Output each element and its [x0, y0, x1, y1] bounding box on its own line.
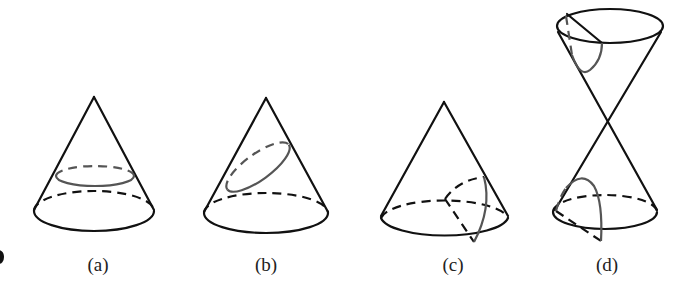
- cone-d-bottom-hyperbola-front: [566, 178, 601, 241]
- cone-a-base-front: [34, 211, 154, 231]
- cone-b-right-side: [266, 98, 328, 212]
- cone-a-circle-front: [56, 176, 134, 186]
- cone-a-base-back: [34, 191, 154, 211]
- cone-d: [553, 9, 663, 241]
- diagram-canvas: [0, 0, 690, 289]
- cone-d-top-rim: [557, 9, 663, 43]
- label-c: (c): [442, 254, 463, 276]
- label-a: (a): [87, 254, 108, 276]
- cone-d-base-back: [553, 195, 657, 212]
- cone-b-base-back: [204, 193, 328, 213]
- cone-b-ellipse-back: [220, 134, 289, 189]
- label-d: (d): [596, 254, 618, 276]
- cone-d-top-hyperbola-front: [572, 43, 602, 72]
- cone-c-base-front: [381, 218, 508, 236]
- conic-sections-figure: (a) (b) (c) (d): [0, 0, 690, 289]
- cone-c-right-side: [444, 102, 508, 216]
- label-b: (b): [255, 254, 277, 276]
- cone-b: [204, 98, 328, 233]
- cone-a: [34, 97, 154, 231]
- cone-a-circle-back: [56, 166, 134, 176]
- cone-c: [381, 102, 508, 242]
- cone-c-left-side: [381, 102, 444, 216]
- cone-c-base-back: [381, 200, 508, 218]
- cone-b-base-front: [204, 213, 328, 233]
- cone-c-parabola-back: [445, 177, 484, 199]
- cone-b-ellipse-front: [227, 145, 296, 200]
